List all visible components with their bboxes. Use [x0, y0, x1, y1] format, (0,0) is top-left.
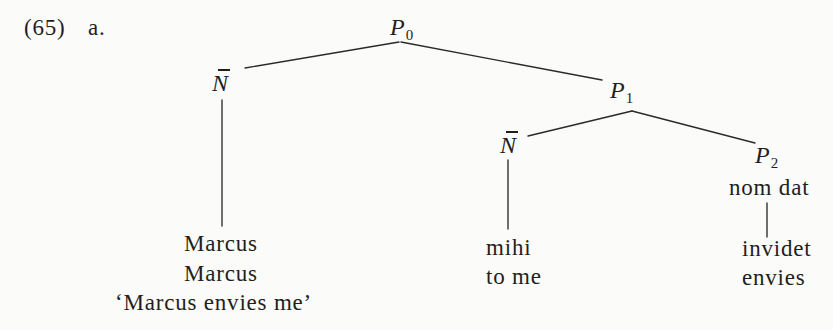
- node-p2-label: P: [755, 142, 770, 168]
- node-p0-label: P: [390, 14, 405, 40]
- sentence-translation: ‘Marcus envies me’: [115, 291, 312, 314]
- node-nbar-2-label: N: [500, 132, 516, 158]
- edge-p0-p1: [401, 42, 602, 80]
- leaf-word-marcus: Marcus: [184, 232, 258, 255]
- leaf-word-mihi: mihi: [486, 236, 531, 259]
- edge-p1-p2: [632, 111, 755, 143]
- node-p2: P2: [755, 143, 778, 170]
- syntax-tree-diagram: (65) a. P0 N P1 N P2 nom dat Marcus Marc…: [0, 0, 833, 330]
- node-p2-case-features: nom dat: [729, 176, 809, 199]
- node-p0: P0: [390, 15, 413, 42]
- leaf-gloss-to-me: to me: [486, 265, 542, 288]
- tree-edges: [0, 0, 833, 330]
- node-p1: P1: [610, 78, 633, 105]
- edge-p1-nbar2: [528, 111, 632, 136]
- node-nbar-1-label: N: [212, 70, 228, 96]
- node-p2-subscript: 2: [771, 155, 779, 171]
- bar-diacritic: [506, 131, 518, 133]
- leaf-gloss-envies: envies: [742, 266, 806, 289]
- node-p1-subscript: 1: [626, 90, 634, 106]
- node-p0-subscript: 0: [406, 27, 414, 43]
- leaf-word-invidet: invidet: [742, 237, 811, 260]
- node-p1-label: P: [610, 77, 625, 103]
- node-nbar-2: N: [500, 133, 516, 157]
- leaf-gloss-marcus: Marcus: [184, 262, 258, 285]
- bar-diacritic: [218, 69, 230, 71]
- node-nbar-1: N: [212, 71, 228, 95]
- edge-p0-nbar1: [245, 42, 399, 68]
